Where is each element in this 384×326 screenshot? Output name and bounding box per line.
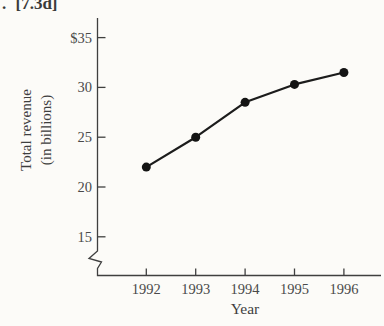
y-tick-label: 20 (40, 179, 92, 195)
x-tick-label: 1992 (124, 281, 168, 297)
axes-lines (89, 18, 381, 276)
y-tick-label: $35 (40, 30, 92, 46)
data-point-1996 (339, 68, 348, 77)
data-point-1995 (290, 80, 299, 89)
revenue-series-line (146, 72, 344, 167)
x-tick-label: 1993 (174, 281, 218, 297)
data-point-1994 (241, 98, 250, 107)
y-axis-title-line1: Total revenue (18, 30, 34, 230)
x-axis-title: Year (215, 300, 275, 317)
x-tick-label: 1995 (273, 281, 317, 297)
revenue-line-chart (0, 0, 384, 326)
x-tick-label: 1996 (322, 281, 366, 297)
y-tick-label: 15 (40, 229, 92, 245)
textbook-chart-figure: . [7.3d] Total revenue (in billions) Yea… (0, 0, 384, 326)
data-point-1993 (191, 133, 200, 142)
x-tick-label: 1994 (223, 281, 267, 297)
y-tick-label: 25 (40, 129, 92, 145)
data-point-1992 (142, 163, 151, 172)
y-tick-label: 30 (40, 79, 92, 95)
